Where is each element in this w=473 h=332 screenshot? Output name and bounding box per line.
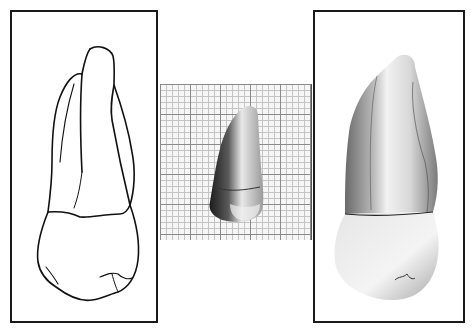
line-drawing-panel — [10, 10, 158, 323]
tooth-photo-small — [160, 84, 312, 240]
tooth-outline-drawing — [12, 12, 160, 325]
photograph-panel — [313, 10, 465, 323]
tooth-photo-large — [315, 12, 467, 325]
graph-paper-panel — [160, 84, 312, 240]
